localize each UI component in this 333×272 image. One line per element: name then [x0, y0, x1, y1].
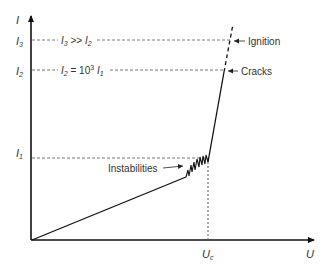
ignition-label: Ignition: [248, 36, 280, 47]
i3-label: I3: [16, 35, 23, 48]
x-axis-label: U: [306, 248, 314, 260]
curve: [32, 24, 233, 240]
i2-label: I2: [16, 65, 23, 78]
linear-segment: [32, 177, 186, 240]
i2-relation: I2 = 103 I1: [61, 64, 104, 77]
uc-label: Uc: [202, 248, 214, 261]
cracks-label: Cracks: [241, 66, 272, 77]
instabilities-arrow: [163, 166, 183, 168]
instabilities-label: Instabilities: [108, 163, 157, 174]
steep-segment: [208, 72, 224, 162]
current-voltage-diagram: I U Uc I3 I2 I1 I3 >> I2 I2 = 103 I1 Ins…: [0, 0, 333, 272]
y-axis-label: I: [16, 14, 19, 26]
i1-label: I1: [16, 147, 23, 160]
i3-relation: I3 >> I2: [61, 35, 92, 47]
ignition-dashed-segment: [224, 24, 233, 72]
